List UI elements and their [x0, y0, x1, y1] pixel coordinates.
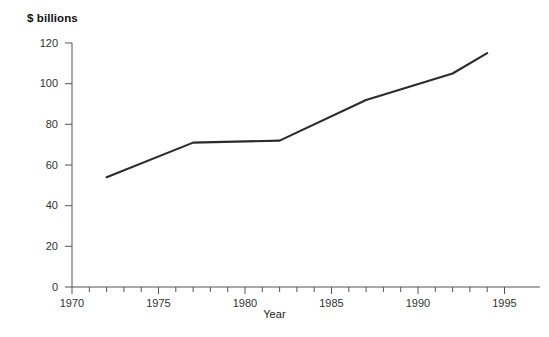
data-series-line — [107, 53, 488, 177]
x-axis-minor-ticks — [89, 287, 487, 292]
x-axis-major-ticks — [72, 287, 505, 294]
axis-lines — [72, 43, 540, 287]
y-tick-label-20: 20 — [24, 240, 58, 252]
y-axis-ticks — [65, 43, 72, 287]
line-chart: $ billions — [0, 0, 549, 337]
y-tick-label-40: 40 — [24, 199, 58, 211]
y-tick-label-60: 60 — [24, 159, 58, 171]
y-tick-label-0: 0 — [24, 281, 58, 293]
y-tick-label-120: 120 — [24, 37, 58, 49]
y-tick-label-100: 100 — [24, 77, 58, 89]
x-axis-title: Year — [0, 308, 549, 320]
y-tick-label-80: 80 — [24, 118, 58, 130]
chart-plot-area — [0, 0, 549, 337]
